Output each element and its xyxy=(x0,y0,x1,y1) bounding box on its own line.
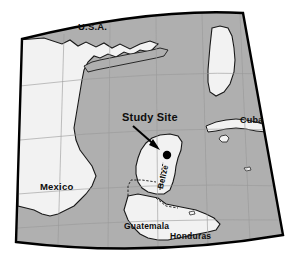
study-site-map-figure: Study Site U.S.A. Mexico Cuba Belize Gua… xyxy=(0,0,296,262)
landmass-islet-b xyxy=(189,211,195,215)
country-label-mexico: Mexico xyxy=(40,182,73,192)
landmass-small-island xyxy=(219,135,229,142)
country-label-usa: U.S.A. xyxy=(78,22,107,32)
study-site-marker xyxy=(163,151,171,159)
study-site-annotation-label: Study Site xyxy=(122,112,178,123)
country-label-cuba: Cuba xyxy=(240,116,263,125)
country-label-guatemala: Guatemala xyxy=(124,222,169,231)
country-label-honduras: Honduras xyxy=(170,232,211,241)
